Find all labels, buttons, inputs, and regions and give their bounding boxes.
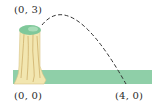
label-end-point: (4, 0) <box>115 91 143 101</box>
label-start-point: (0, 3) <box>14 5 42 15</box>
tree-stump-icon <box>14 25 46 84</box>
label-origin-point: (0, 0) <box>14 91 42 101</box>
projectile-diagram: (0, 3) (0, 0) (4, 0) <box>0 0 158 110</box>
